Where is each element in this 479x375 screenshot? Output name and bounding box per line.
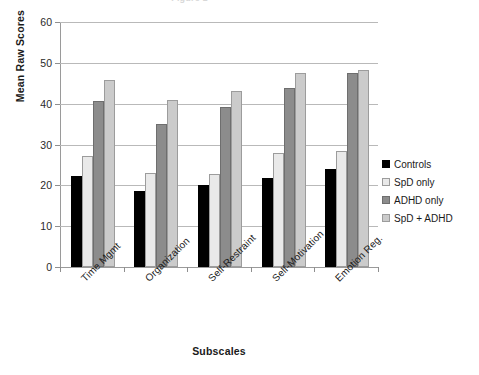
x-axis-tick [378, 267, 379, 272]
y-axis-tick-label: 60 [24, 17, 52, 27]
y-axis-tick-label: 0 [24, 262, 52, 272]
y-axis-tick-label-wrap: 10 [18, 221, 52, 231]
bar [134, 191, 145, 267]
bar [220, 107, 231, 267]
bar [295, 73, 306, 267]
x-axis-tick [251, 267, 252, 272]
y-axis-tick-label: 30 [24, 140, 52, 150]
chart-title: Figure 1 [0, 0, 379, 5]
legend-item[interactable]: ADHD only [382, 191, 477, 209]
legend-swatch-icon [382, 214, 390, 222]
y-axis-tick-label: 20 [24, 180, 52, 190]
bar [358, 70, 369, 267]
legend-item-label: Controls [394, 159, 431, 170]
legend-swatch-icon [382, 160, 390, 168]
x-axis-tick [314, 267, 315, 272]
bar [82, 156, 93, 267]
bar [71, 176, 82, 267]
y-axis-tick-label-wrap: 20 [18, 180, 52, 190]
y-axis-tick-label-wrap: 60 [18, 17, 52, 27]
bar [262, 178, 273, 267]
legend-item-label: SpD + ADHD [394, 213, 453, 224]
bar [156, 124, 167, 267]
y-axis-tick [55, 185, 60, 186]
y-axis-tick-label: 40 [24, 99, 52, 109]
bar [325, 169, 336, 267]
y-axis-tick [55, 22, 60, 23]
bar [198, 185, 209, 267]
legend-item[interactable]: SpD + ADHD [382, 209, 477, 227]
bar [347, 73, 358, 267]
x-axis-title: Subscales [60, 345, 378, 357]
bar [336, 151, 347, 267]
y-axis-tick [55, 104, 60, 105]
y-axis-tick-label-wrap: 30 [18, 140, 52, 150]
y-axis-tick [55, 63, 60, 64]
y-axis-tick-label-wrap: 40 [18, 99, 52, 109]
bar [93, 101, 104, 267]
bars-container [61, 22, 378, 267]
legend-item[interactable]: SpD only [382, 173, 477, 191]
y-axis-tick [55, 145, 60, 146]
bar [145, 173, 156, 267]
y-axis-tick-label: 50 [24, 58, 52, 68]
y-axis-tick [55, 226, 60, 227]
chart-legend: ControlsSpD onlyADHD onlySpD + ADHD [382, 155, 477, 227]
legend-item[interactable]: Controls [382, 155, 477, 173]
y-axis-tick-label-wrap: 0 [18, 262, 52, 272]
legend-item-label: ADHD only [394, 195, 443, 206]
x-axis-tick [187, 267, 188, 272]
y-axis-tick-label: 10 [24, 221, 52, 231]
bar-chart-figure: Figure 1 Mean Raw Scores 0102030405060 T… [0, 0, 479, 375]
legend-item-label: SpD only [394, 177, 435, 188]
x-axis-tick [124, 267, 125, 272]
bar [209, 174, 220, 267]
bar [104, 80, 115, 267]
bar [273, 153, 284, 267]
x-axis-tick [60, 267, 61, 272]
legend-swatch-icon [382, 178, 390, 186]
legend-swatch-icon [382, 196, 390, 204]
bar [284, 88, 295, 267]
y-axis-tick-label-wrap: 50 [18, 58, 52, 68]
